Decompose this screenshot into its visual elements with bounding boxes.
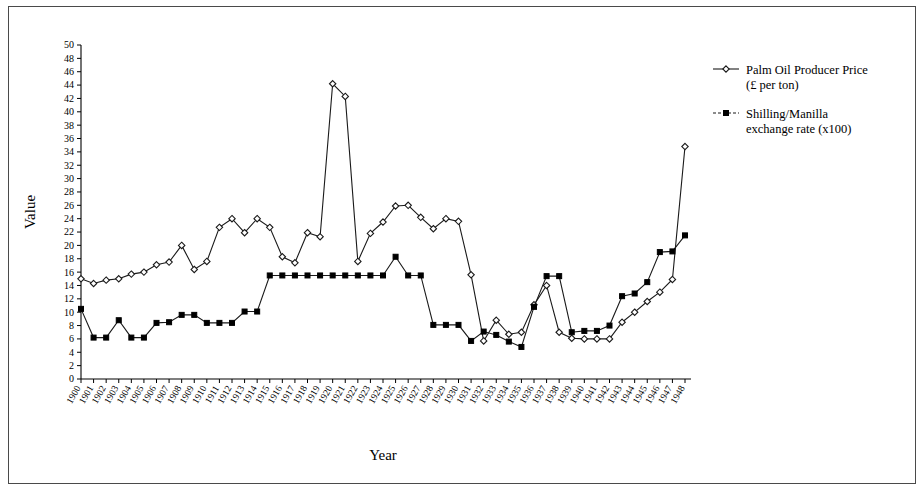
y-tick-label: 40 [64,106,74,117]
data-point-marker [179,312,184,317]
data-point-marker [355,273,360,278]
data-point-marker [518,329,524,335]
chart-figure: 0246810121416182022242628303234363840424… [0,0,924,491]
series-2 [79,233,688,350]
y-tick-label: 38 [64,120,74,131]
legend-label-line1: Shilling/Manilla [746,107,828,121]
legend-entry-2: Shilling/Manillaexchange rate (x100) [713,107,852,137]
data-point-marker [368,273,373,278]
data-point-marker [657,250,662,255]
y-tick-label: 12 [64,293,74,304]
y-tick-label: 44 [64,79,74,90]
legend-label-line2: (£ per ton) [746,78,799,92]
series-line [81,84,685,341]
data-point-marker [393,254,398,259]
data-point-marker [682,143,688,149]
data-point-marker [632,291,637,296]
data-point-marker [103,277,109,283]
y-tick-label: 14 [64,280,74,291]
data-point-marker [267,273,272,278]
y-tick-label: 28 [64,186,74,197]
y-tick-label: 46 [64,66,74,77]
y-tick-label: 48 [64,53,74,64]
y-tick-label: 16 [64,267,74,278]
data-point-marker [217,320,222,325]
y-tick-label: 10 [64,307,74,318]
y-tick-label: 4 [69,347,74,358]
data-point-marker [532,304,537,309]
data-point-marker [154,320,159,325]
y-tick-label: 24 [64,213,74,224]
y-tick-label: 2 [69,360,74,371]
data-point-marker [406,273,411,278]
data-point-marker [683,233,688,238]
x-axis: 1900190119021903190419051906190719081909… [65,379,691,405]
data-point-marker [330,273,335,278]
data-point-marker [494,332,499,337]
data-point-marker [607,323,612,328]
data-point-marker [141,269,147,275]
data-point-marker [78,276,84,282]
data-point-marker [79,306,84,311]
data-point-marker [242,309,247,314]
data-point-marker [519,344,524,349]
data-point-marker [456,322,461,327]
data-point-marker [543,282,549,288]
y-tick-label: 42 [64,93,74,104]
data-point-marker [594,336,600,342]
data-point-marker [557,274,562,279]
y-tick-label: 6 [69,333,74,344]
data-point-marker [723,66,729,72]
data-point-marker [116,318,121,323]
y-axis: 0246810121416182022242628303234363840424… [64,39,81,384]
data-point-marker [431,322,436,327]
data-point-marker [216,224,222,230]
x-axis-title: Year [369,447,397,463]
data-point-marker [167,320,172,325]
data-point-marker [443,322,448,327]
y-tick-label: 34 [64,146,74,157]
data-point-marker [343,273,348,278]
data-series-group [78,81,688,350]
data-point-marker [480,338,486,344]
data-point-marker [724,111,729,116]
data-point-marker [355,258,361,264]
data-point-marker [469,338,474,343]
data-point-marker [116,276,122,282]
data-point-marker [645,280,650,285]
legend-entry-1: Palm Oil Producer Price(£ per ton) [713,63,868,93]
data-point-marker [128,271,134,277]
data-point-marker [670,249,675,254]
data-point-marker [594,328,599,333]
data-point-marker [230,320,235,325]
data-point-marker [318,273,323,278]
data-point-marker [381,273,386,278]
data-point-marker [141,335,146,340]
data-point-marker [506,339,511,344]
y-tick-label: 26 [64,200,74,211]
y-tick-label: 8 [69,320,74,331]
data-point-marker [468,272,474,278]
data-point-marker [620,294,625,299]
y-tick-label: 20 [64,240,74,251]
chart-legend: Palm Oil Producer Price(£ per ton)Shilli… [713,63,868,137]
data-point-marker [153,262,159,268]
data-point-marker [192,312,197,317]
data-point-marker [418,273,423,278]
x-tick-label: 1948 [669,384,687,406]
data-point-marker [90,280,96,286]
legend-label-line1: Palm Oil Producer Price [746,63,868,77]
data-point-marker [556,329,562,335]
y-axis-title: Value [22,195,38,229]
data-point-marker [191,266,197,272]
chart-canvas: 0246810121416182022242628303234363840424… [9,7,915,483]
data-point-marker [279,254,285,260]
data-point-marker [104,335,109,340]
data-point-marker [582,328,587,333]
y-tick-label: 22 [64,226,74,237]
y-tick-label: 50 [64,39,74,50]
data-point-marker [569,330,574,335]
y-tick-label: 0 [69,373,74,384]
data-point-marker [129,335,134,340]
y-tick-label: 36 [64,133,74,144]
